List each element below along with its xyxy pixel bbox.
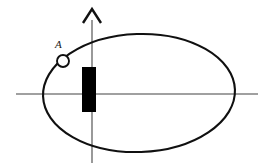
central-bar xyxy=(82,67,96,112)
point-a-marker xyxy=(57,55,69,67)
diagram-canvas xyxy=(0,0,271,168)
figure-root: A xyxy=(0,0,271,168)
orbit-ellipse xyxy=(41,31,237,156)
point-a-label: A xyxy=(55,39,62,50)
